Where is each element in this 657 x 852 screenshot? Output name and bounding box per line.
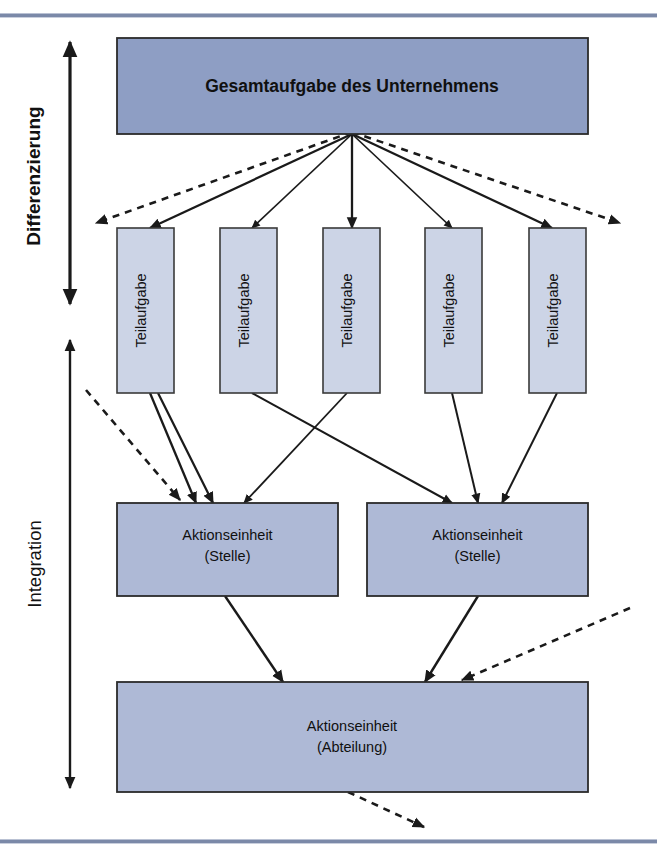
edge-gesamt-to-teil-2 xyxy=(252,134,352,228)
edge-stelle-left-to-abteilung xyxy=(225,596,283,682)
node-teilaufgabe-1-label: Teilaufgabe xyxy=(133,273,149,347)
node-stelle-left[interactable]: Aktionseinheit (Stelle) xyxy=(117,503,338,596)
edge-stelle-right-to-abteilung xyxy=(425,596,478,682)
node-stelle-right-label-line1: Aktionseinheit xyxy=(432,527,522,543)
node-teilaufgabe-4[interactable]: Teilaufgabe xyxy=(425,228,482,393)
edge-dashed-into-abteilung xyxy=(462,608,630,680)
axis-integration-label: Integration xyxy=(24,520,45,607)
axis-differenzierung-label: Differenzierung xyxy=(23,106,44,245)
node-abteilung-label-line1: Aktionseinheit xyxy=(307,718,397,734)
edge-teil-3-to-stelle-left xyxy=(244,393,347,503)
edge-dashed-out-of-abteilung xyxy=(348,792,424,827)
edges-integration-upper xyxy=(86,390,557,503)
edge-gesamt-dashed-left xyxy=(96,132,352,223)
node-teilaufgabe-3[interactable]: Teilaufgabe xyxy=(323,228,380,393)
edge-teil-2-to-stelle-right xyxy=(252,393,452,503)
edge-teil-1b-to-stelle-left xyxy=(150,393,196,503)
edge-teil-4-to-stelle-right xyxy=(452,393,478,503)
axis-differenzierung: Differenzierung xyxy=(23,42,70,304)
edges-differenzierung xyxy=(96,132,620,228)
node-teilaufgabe-5[interactable]: Teilaufgabe xyxy=(529,228,586,393)
node-stelle-right[interactable]: Aktionseinheit (Stelle) xyxy=(367,503,588,596)
node-teilaufgabe-4-label: Teilaufgabe xyxy=(441,273,457,347)
node-abteilung-rect[interactable] xyxy=(117,682,588,792)
node-stelle-left-label-line1: Aktionseinheit xyxy=(182,527,272,543)
edge-gesamt-to-teil-5 xyxy=(352,134,552,228)
edge-gesamt-to-teil-1 xyxy=(150,134,352,228)
axis-integration: Integration xyxy=(24,340,70,788)
node-abteilung[interactable]: Aktionseinheit (Abteilung) xyxy=(117,682,588,792)
edge-teil-5-to-stelle-right xyxy=(502,393,557,503)
node-teilaufgabe-1[interactable]: Teilaufgabe xyxy=(117,228,174,393)
edge-gesamt-dashed-right xyxy=(352,132,620,223)
node-teilaufgabe-5-label: Teilaufgabe xyxy=(545,273,561,347)
edge-teil-1-to-stelle-left xyxy=(158,393,213,503)
node-gesamtaufgabe[interactable]: Gesamtaufgabe des Unternehmens xyxy=(117,38,588,134)
figure-canvas: Differenzierung Integration xyxy=(0,0,657,852)
organization-task-diagram: Differenzierung Integration xyxy=(0,16,657,838)
node-gesamtaufgabe-label: Gesamtaufgabe des Unternehmens xyxy=(205,76,499,96)
node-stelle-left-label-line2: (Stelle) xyxy=(205,548,251,564)
node-teilaufgabe-3-label: Teilaufgabe xyxy=(339,273,355,347)
node-abteilung-label-line2: (Abteilung) xyxy=(317,739,387,755)
node-teilaufgabe-2[interactable]: Teilaufgabe xyxy=(220,228,277,393)
bottom-divider-rule xyxy=(0,839,657,844)
node-stelle-right-label-line2: (Stelle) xyxy=(455,548,501,564)
node-teilaufgabe-2-label: Teilaufgabe xyxy=(236,273,252,347)
